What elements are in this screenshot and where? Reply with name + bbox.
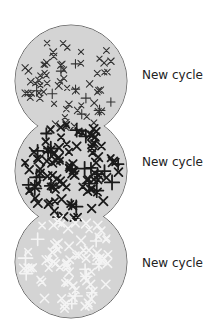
label-stage-1: New cycle xyxy=(142,68,203,82)
label-stage-2: New cycle xyxy=(142,155,203,169)
label-stage-3: New cycle xyxy=(142,256,203,270)
